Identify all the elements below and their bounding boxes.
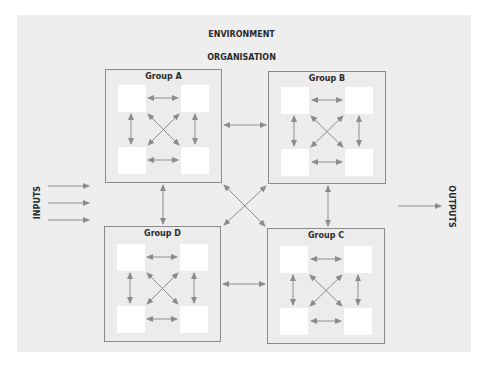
- group-c-title: Group C: [268, 231, 384, 240]
- group-b-title: Group B: [269, 74, 385, 83]
- group-b-member-4: [345, 149, 373, 176]
- group-d: Group D: [104, 226, 221, 342]
- group-a-member-2: [181, 85, 209, 112]
- environment-label: ENVIRONMENT: [0, 30, 483, 39]
- group-a-member-1: [118, 85, 146, 112]
- group-d-member-4: [180, 306, 208, 333]
- group-c: Group C: [267, 228, 385, 344]
- inputs-label: INPUTS: [33, 186, 42, 219]
- group-b-member-2: [345, 87, 373, 114]
- group-d-member-2: [180, 244, 208, 271]
- group-b-member-1: [281, 87, 309, 114]
- group-d-title: Group D: [105, 229, 220, 238]
- group-c-member-4: [344, 308, 372, 335]
- group-d-member-1: [117, 244, 145, 271]
- group-a: Group A: [105, 69, 222, 183]
- group-a-title: Group A: [106, 72, 221, 81]
- environment-panel: [17, 15, 471, 352]
- group-b: Group B: [268, 71, 386, 184]
- organisation-label: ORGANISATION: [0, 53, 483, 62]
- outputs-label: OUTPUTS: [447, 185, 456, 227]
- group-d-member-3: [117, 306, 145, 333]
- group-c-member-2: [344, 246, 372, 273]
- group-a-member-4: [181, 147, 209, 174]
- group-a-member-3: [118, 147, 146, 174]
- group-b-member-3: [281, 149, 309, 176]
- group-c-member-1: [280, 246, 308, 273]
- group-c-member-3: [280, 308, 308, 335]
